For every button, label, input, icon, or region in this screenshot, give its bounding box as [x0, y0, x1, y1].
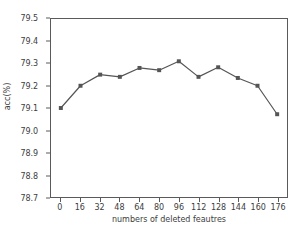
data-point-marker: [118, 75, 122, 79]
data-point-marker: [236, 76, 240, 80]
x-tick-label: 160: [251, 203, 266, 212]
data-point-marker: [98, 73, 102, 77]
y-tick-label: 79.3: [21, 59, 38, 68]
data-point-marker: [275, 112, 279, 116]
plot-area: [50, 18, 288, 198]
data-point-marker: [177, 59, 181, 63]
y-tick-label: 79.2: [21, 81, 38, 90]
y-tick-label: 79.4: [21, 36, 38, 45]
x-tick-label: 176: [270, 203, 285, 212]
data-point-marker: [197, 75, 201, 79]
data-point-marker: [157, 68, 161, 72]
x-tick-mark: [119, 198, 120, 202]
x-tick-label: 80: [154, 203, 164, 212]
x-tick-label: 16: [75, 203, 85, 212]
line-series: [51, 19, 287, 197]
x-tick-mark: [139, 198, 140, 202]
data-point-marker: [138, 66, 142, 70]
y-tick-label: 79.1: [21, 104, 38, 113]
x-tick-label: 64: [134, 203, 144, 212]
x-axis-tick-labels: 0163248648096112128144160176: [50, 200, 288, 214]
x-tick-mark: [258, 198, 259, 202]
data-point-marker: [79, 84, 83, 88]
x-tick-label: 96: [174, 203, 184, 212]
x-tick-mark: [179, 198, 180, 202]
chart-figure: 78.778.878.979.079.179.279.379.479.5 acc…: [0, 0, 308, 233]
x-tick-mark: [60, 198, 61, 202]
series-line: [61, 61, 277, 114]
x-tick-mark: [199, 198, 200, 202]
y-axis-title: acc(%): [3, 74, 12, 120]
x-tick-mark: [100, 198, 101, 202]
x-tick-label: 0: [57, 203, 62, 212]
x-axis-title: numbers of deleted feautres: [50, 215, 288, 224]
x-tick-mark: [219, 198, 220, 202]
x-tick-label: 48: [114, 203, 124, 212]
x-tick-label: 112: [191, 203, 206, 212]
x-tick-label: 32: [94, 203, 104, 212]
y-tick-label: 78.8: [21, 171, 38, 180]
y-tick-label: 79.0: [21, 126, 38, 135]
data-point-marker: [59, 106, 63, 110]
x-tick-label: 128: [211, 203, 226, 212]
x-tick-mark: [238, 198, 239, 202]
x-tick-mark: [80, 198, 81, 202]
x-tick-mark: [278, 198, 279, 202]
data-point-marker: [216, 65, 220, 69]
x-tick-mark: [159, 198, 160, 202]
data-point-marker: [256, 84, 260, 88]
y-tick-label: 78.9: [21, 149, 38, 158]
x-tick-label: 144: [231, 203, 246, 212]
y-tick-label: 79.5: [21, 14, 38, 23]
y-tick-label: 78.7: [21, 194, 38, 203]
